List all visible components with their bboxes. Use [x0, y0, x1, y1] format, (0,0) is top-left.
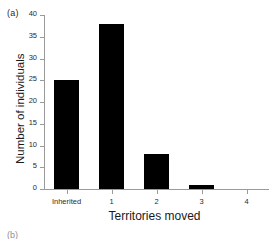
bar — [54, 80, 79, 189]
y-axis-tick-label: 5 — [33, 162, 37, 170]
y-axis-tick: 15 — [40, 124, 44, 125]
x-axis-tick-label: 2 — [154, 198, 158, 206]
y-axis-line — [44, 15, 45, 189]
y-axis-tick: 5 — [40, 167, 44, 168]
y-axis-tick-label: 40 — [29, 10, 37, 18]
x-axis-tick — [247, 190, 248, 194]
y-axis-tick: 20 — [40, 102, 44, 103]
y-axis-tick-label: 15 — [29, 119, 37, 127]
y-axis-tick: 30 — [40, 59, 44, 60]
x-axis-tick-label: 4 — [244, 198, 248, 206]
y-axis-tick: 40 — [40, 15, 44, 16]
figure-panel-a: (a) Number of individuals 05101520253035… — [0, 0, 279, 239]
panel-label-b: (b) — [7, 231, 18, 239]
y-axis-tick: 10 — [40, 146, 44, 147]
x-axis-title: Territories moved — [40, 210, 269, 222]
x-axis-tick-label: 1 — [109, 198, 113, 206]
y-axis-title: Number of individuals — [15, 29, 27, 189]
x-axis-tick — [157, 190, 158, 194]
bar — [189, 185, 214, 189]
x-axis-tick-label: Inherited — [52, 198, 81, 206]
panel-label-a: (a) — [7, 9, 19, 18]
y-axis-tick-label: 30 — [29, 54, 37, 62]
x-axis-tick — [202, 190, 203, 194]
y-axis-tick: 0 — [40, 189, 44, 190]
y-axis-tick-label: 10 — [29, 141, 37, 149]
x-axis-tick-label: 3 — [199, 198, 203, 206]
plot-area: 0510152025303540 Inherited1234 — [44, 15, 269, 190]
x-axis-tick — [67, 190, 68, 194]
bar — [99, 24, 124, 189]
y-axis-tick-label: 25 — [29, 75, 37, 83]
y-axis-tick-label: 35 — [29, 32, 37, 40]
y-axis-tick: 25 — [40, 80, 44, 81]
y-axis-tick: 35 — [40, 37, 44, 38]
x-axis-tick — [112, 190, 113, 194]
bar — [144, 154, 169, 189]
y-axis-tick-label: 0 — [33, 184, 37, 192]
y-axis-tick-label: 20 — [29, 97, 37, 105]
